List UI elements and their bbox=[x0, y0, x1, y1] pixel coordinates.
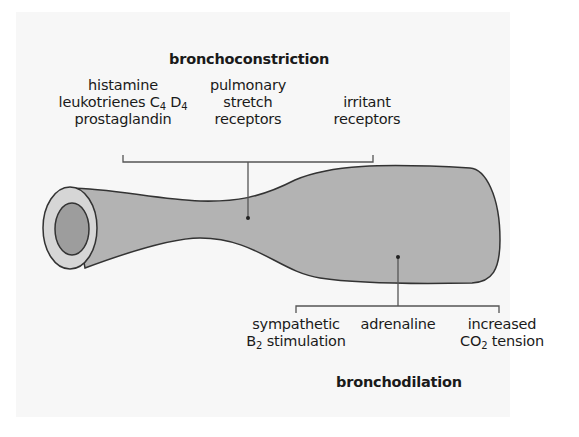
label-prostaglandin: prostaglandin bbox=[44, 111, 202, 128]
label-receptors: receptors bbox=[322, 111, 412, 128]
label-co2-tension: CO2 tension bbox=[454, 333, 550, 350]
bronchodilation-title: bronchodilation bbox=[336, 374, 462, 390]
dilation-cause-sympathetic: sympathetic B2 stimulation bbox=[244, 316, 348, 350]
label-histamine: histamine bbox=[44, 77, 202, 94]
constriction-cause-mediators: histamine leukotrienes C4 D4 prostagland… bbox=[44, 77, 202, 128]
label-receptors: receptors bbox=[196, 111, 300, 128]
bronchoconstriction-title: bronchoconstriction bbox=[169, 51, 329, 67]
label-pulmonary: pulmonary bbox=[196, 77, 300, 94]
constriction-pointer-dot bbox=[246, 216, 250, 220]
constriction-cause-irritant-receptors: irritant receptors bbox=[322, 94, 412, 128]
dilation-cause-co2: increased CO2 tension bbox=[454, 316, 550, 350]
label-b2-stimulation: B2 stimulation bbox=[244, 333, 348, 350]
label-adrenaline: adrenaline bbox=[350, 316, 446, 333]
dilation-pointer-dot bbox=[396, 255, 400, 259]
bronchus-lumen bbox=[55, 203, 89, 255]
dilation-cause-adrenaline: adrenaline bbox=[350, 316, 446, 333]
label-irritant: irritant bbox=[322, 94, 412, 111]
label-stretch: stretch bbox=[196, 94, 300, 111]
constriction-cause-stretch-receptors: pulmonary stretch receptors bbox=[196, 77, 300, 128]
label-sympathetic: sympathetic bbox=[244, 316, 348, 333]
label-leukotrienes: leukotrienes C4 D4 bbox=[44, 94, 202, 111]
bronchus-tube bbox=[70, 166, 500, 284]
label-increased: increased bbox=[454, 316, 550, 333]
